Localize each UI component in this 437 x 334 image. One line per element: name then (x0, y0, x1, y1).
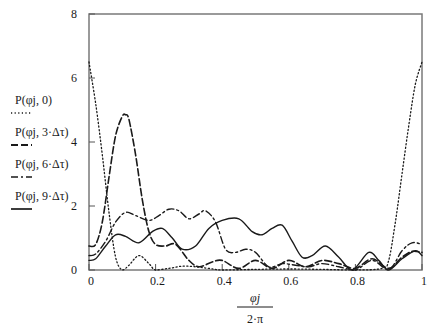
legend: P(φj, 0)P(φj, 3·Δτ)P(φj, 6·Δτ)P(φj, 9·Δτ… (11, 93, 68, 209)
x-tick-label: 0.6 (283, 274, 298, 288)
x-axis: 00.20.40.60.81 (88, 264, 427, 288)
y-tick-label: 2 (71, 199, 77, 213)
x-axis-label-numerator: φj (250, 291, 261, 305)
x-tick-label: 1 (421, 274, 427, 288)
x-tick-label: 0.8 (350, 274, 365, 288)
y-tick-label: 6 (71, 71, 77, 85)
plot-frame (89, 14, 422, 270)
y-tick-label: 4 (71, 135, 77, 149)
y-axis: 02468 (71, 7, 95, 277)
series-line-3 (89, 218, 422, 270)
x-tick-label: 0.4 (217, 274, 232, 288)
x-axis-label: φj 2·π (237, 291, 273, 326)
series-line-0 (89, 62, 422, 270)
x-tick-label: 0.2 (150, 274, 165, 288)
x-axis-label-denominator: 2·π (247, 312, 263, 326)
legend-entry-label: P(φj, 0) (15, 93, 52, 107)
series-group (89, 62, 422, 270)
plot-border (89, 14, 422, 270)
legend-entry-label: P(φj, 9·Δτ) (15, 189, 68, 203)
legend-entry-label: P(φj, 6·Δτ) (15, 157, 68, 171)
y-tick-label: 0 (71, 263, 77, 277)
series-line-1 (89, 114, 422, 268)
y-tick-label: 8 (71, 7, 77, 21)
x-tick-label: 0 (88, 274, 94, 288)
legend-entry-label: P(φj, 3·Δτ) (15, 125, 68, 139)
line-chart: 02468 00.20.40.60.81 P(φj, 0)P(φj, 3·Δτ)… (0, 0, 437, 334)
